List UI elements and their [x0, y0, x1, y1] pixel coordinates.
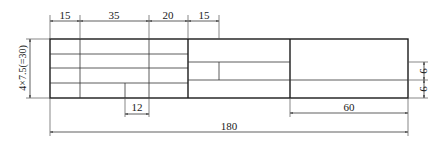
left-section-grid: [50, 39, 188, 98]
dimension-labels: 15 35 20 15 4×7.5(=30) 12 60 180 9 9: [17, 9, 430, 132]
dim-label-right-row-1: 9: [418, 86, 430, 92]
dim-label-top-2: 20: [163, 9, 175, 21]
dim-label-60: 60: [344, 101, 356, 113]
section-dividers: [188, 39, 290, 98]
dim-label-180: 180: [221, 120, 238, 132]
dim-label-top-3: 15: [199, 9, 211, 21]
middle-section-grid: [188, 62, 290, 80]
dim-label-right-row-0: 9: [418, 68, 430, 74]
dim-label-top-1: 35: [109, 9, 121, 21]
dim-label-12: 12: [132, 101, 143, 113]
dimension-lines: [30, 21, 424, 132]
title-block-drawing: 15 35 20 15 4×7.5(=30) 12 60 180 9 9: [0, 0, 444, 143]
dim-label-top-0: 15: [60, 9, 72, 21]
outer-frame: [50, 39, 408, 98]
right-section-grid: [290, 62, 408, 80]
dim-label-left-vertical: 4×7.5(=30): [17, 45, 29, 90]
extension-lines: [26, 15, 428, 136]
